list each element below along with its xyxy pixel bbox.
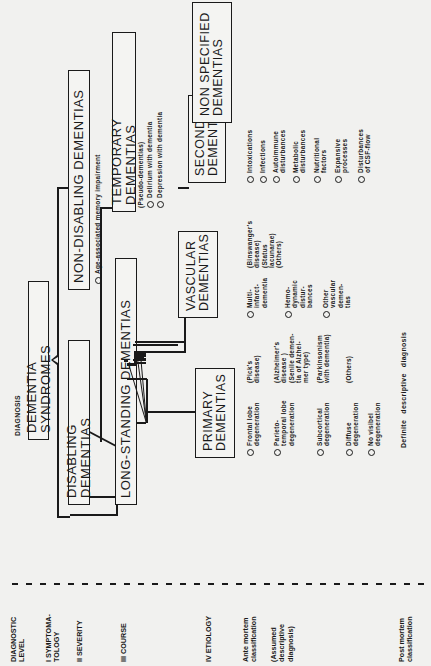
connector	[90, 432, 116, 447]
box-dementia-syndromes: DEMENTIA SYNDROMES	[28, 281, 49, 440]
diagnostic-level-header: DIAGNOSTIC LEVEL	[10, 617, 27, 662]
connector	[57, 517, 70, 519]
bullet-icon	[247, 311, 254, 318]
bullet-icon	[314, 176, 321, 183]
bullet-icon	[260, 176, 267, 183]
secondary-item: Intoxications	[246, 130, 254, 183]
bullet-icon	[285, 311, 292, 318]
connector	[184, 317, 186, 353]
vascular-item: Other vascular demen- tias	[322, 280, 351, 318]
box-non-disabling-dementias: NON-DISABLING DEMENTIAS	[68, 70, 90, 290]
bullet-icon	[147, 201, 154, 208]
box-primary-dementias: PRIMARY DEMENTIAS	[195, 368, 235, 458]
bullet-icon	[358, 176, 365, 183]
primary-item-note: (Others)	[345, 356, 352, 383]
connector-primary	[146, 412, 195, 414]
secondary-item: Nutritional factors	[313, 138, 328, 183]
connector	[90, 497, 116, 499]
level-etiology: IV ETIOLOGY	[205, 616, 213, 662]
temporary-title: TEMPORARY DEMENTIAS	[110, 39, 137, 205]
bullet-icon	[273, 176, 280, 183]
bullet-icon	[346, 449, 353, 456]
temporary-subtitle: (Pseudo-dementias)	[137, 142, 144, 208]
connector-vascular	[135, 342, 185, 344]
bullet-icon	[368, 449, 375, 456]
ante-mortem-label: Ante mortem classification	[242, 616, 259, 662]
connector	[134, 363, 146, 365]
box-non-specified-dementias: NON SPECIFIED DEMENTIAS	[192, 2, 232, 123]
primary-item-note: (Alzheimer's disease ) (Senile demen- ti…	[273, 333, 310, 383]
box-disabling-dementias: DISABLING DEMENTIAS	[68, 340, 90, 505]
secondary-item: Autoimmune disturbances	[272, 130, 287, 183]
vascular-item: Hemo- dynamic distur- bances	[284, 280, 313, 318]
primary-item-note: (Parkinsonism with dementia)	[316, 334, 331, 383]
bullet-icon	[247, 449, 254, 456]
bullet-icon	[335, 176, 342, 183]
connector	[57, 188, 59, 518]
bullet-icon	[274, 449, 281, 456]
primary-item-note: (Pick's disease)	[246, 355, 261, 383]
primary-item: Parieto- temporal lobe degeneration	[273, 400, 295, 456]
connector	[100, 208, 102, 442]
primary-item: Diffuse degeneration	[345, 402, 360, 456]
secondary-item: Metabolic disturbances	[292, 130, 307, 183]
box-vascular-dementias: VASCULAR DEMENTIAS	[178, 231, 218, 318]
connector	[127, 379, 147, 381]
level-course: III COURSE	[120, 623, 128, 662]
temporary-item: Depression with dementia	[156, 112, 164, 208]
diagnosis-diagram: DIAGNOSIS DIAGNOSTIC LEVEL I SYMPTOMA- T…	[0, 0, 431, 666]
bullet-icon	[293, 176, 300, 183]
connector-secondary	[133, 345, 178, 347]
level-symptomatology: I SYMPTOMA- TOLOGY	[45, 614, 62, 662]
bullet-icon	[317, 449, 324, 456]
secondary-item: Disturbances of CSF-flow	[357, 129, 372, 183]
bullet-icon	[323, 311, 330, 318]
bullet-icon	[157, 201, 164, 208]
connector	[136, 423, 146, 425]
primary-item: No visibel degeneration	[367, 402, 382, 456]
vascular-item-note: (Binswanger's disease) (Status lacunarae…	[246, 221, 283, 268]
assumed-diagnosis-label: (Assumed descriptive diagnosis)	[270, 624, 295, 662]
level-severity: II SEVERITY	[76, 620, 84, 662]
definite-descriptive-diagnosis: Definite descriptive diagnosis	[400, 332, 408, 448]
bullet-icon	[247, 176, 254, 183]
temporary-item: Delirium with dementia	[146, 121, 154, 208]
primary-item: Subcortical degeneration	[316, 402, 331, 456]
secondary-item: Expansive processes	[334, 139, 349, 183]
post-mortem-label: Post mortem classification	[398, 616, 415, 662]
box-temporary-dementias: TEMPORARY DEMENTIAS	[112, 32, 136, 212]
vascular-item: Multi- infarct- dementia	[246, 278, 268, 318]
secondary-item: Infections	[259, 140, 267, 183]
connector	[70, 515, 116, 517]
diagram-title: DIAGNOSIS	[14, 395, 22, 436]
primary-item: Frontal lobe degeneration	[246, 402, 261, 456]
